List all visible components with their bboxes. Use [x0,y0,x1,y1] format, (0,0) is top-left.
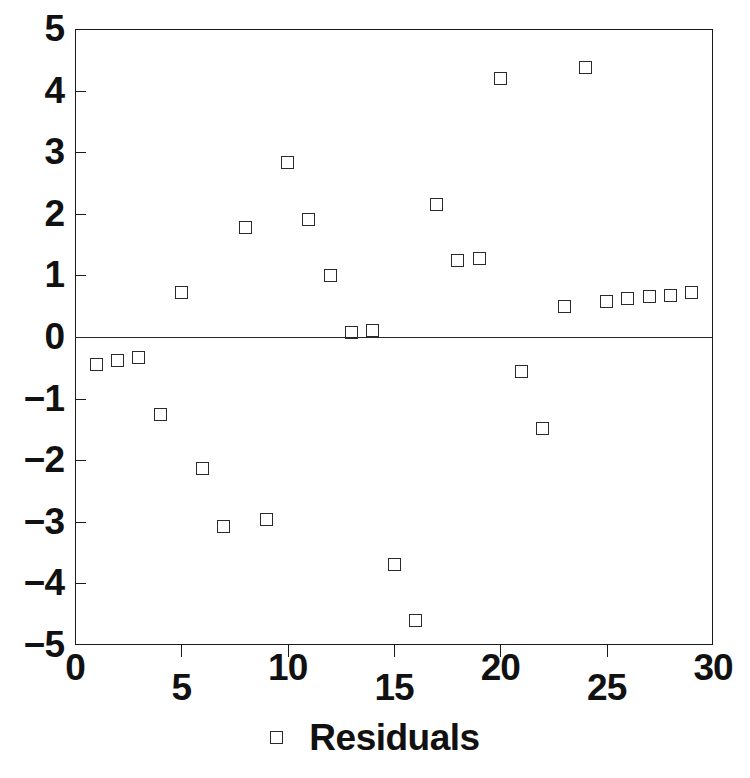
data-point [90,358,103,371]
x-axis-tick-label: 5 [136,669,226,706]
y-axis-tick-label: −3 [0,503,64,540]
data-point [600,295,613,308]
x-axis-tick-label: 10 [243,649,333,686]
data-point [536,422,549,435]
y-axis-tick [75,399,86,400]
y-axis-tick-label: −4 [0,564,64,601]
data-point [366,324,379,337]
x-axis-tick-label: 30 [668,649,750,686]
y-axis-tick-label: 2 [0,195,64,232]
data-point [111,354,124,367]
x-axis-tick-label: 25 [562,669,652,706]
data-point [409,614,422,627]
x-axis-tick [607,645,608,657]
data-point [239,221,252,234]
data-point [515,365,528,378]
x-axis-tick-label: 20 [455,649,545,686]
legend-marker-open-square-icon [270,731,283,744]
data-point [430,198,443,211]
zero-reference-line [75,337,713,338]
x-axis-tick-label: 15 [349,669,439,706]
data-point [664,289,677,302]
y-axis-tick-label: 3 [0,133,64,170]
data-point [451,254,464,267]
x-axis-tick-label: 0 [30,649,120,686]
y-axis-tick [75,583,86,584]
data-point [154,408,167,421]
data-point [260,513,273,526]
y-axis-tick-label: 5 [0,10,64,47]
data-point [643,290,656,303]
y-axis-tick [75,91,86,92]
data-point [345,326,358,339]
y-axis-tick-label: 4 [0,72,64,109]
data-point [558,300,571,313]
data-point [494,72,507,85]
data-point [324,269,337,282]
data-point [175,286,188,299]
data-point [473,252,486,265]
y-axis-tick-label: −2 [0,441,64,478]
data-point [579,61,592,74]
y-axis-tick [75,522,86,523]
data-point [621,292,634,305]
data-point [196,462,209,475]
data-point [281,156,294,169]
data-point [685,286,698,299]
data-point [302,213,315,226]
residuals-scatter-figure: 543210−1−2−3−4−5 051015202530 Residuals [0,0,750,778]
y-axis-tick [75,214,86,215]
chart-legend: Residuals [0,712,750,762]
x-axis-tick [394,645,395,657]
y-axis-tick [75,152,86,153]
data-point [132,351,145,364]
data-point [217,520,230,533]
y-axis-tick-label: −1 [0,380,64,417]
y-axis-tick [75,460,86,461]
legend-label: Residuals [309,719,479,756]
data-point [388,558,401,571]
x-axis-tick [181,645,182,657]
y-axis-tick [75,275,86,276]
y-axis-tick-label: 0 [0,318,64,355]
y-axis-tick-label: 1 [0,256,64,293]
